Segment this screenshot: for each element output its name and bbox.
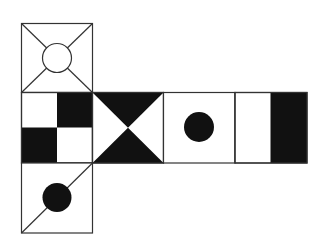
face-left [22, 93, 93, 164]
face-right [164, 93, 236, 164]
face-bottom [22, 163, 93, 233]
face-back [235, 93, 307, 164]
face-top [22, 24, 93, 93]
face-front [93, 93, 164, 164]
cube-net-diagram [0, 0, 328, 246]
